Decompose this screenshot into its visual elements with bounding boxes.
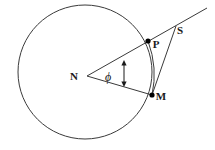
angle-phi-arrow xyxy=(121,60,126,87)
point-dot-m xyxy=(149,92,154,97)
geometry-diagram-root: ϕ N P M S xyxy=(0,0,215,150)
angle-phi-label: ϕ xyxy=(105,70,111,84)
main-circle xyxy=(18,5,152,139)
radius-n-to-m xyxy=(87,76,152,95)
point-dot-p xyxy=(145,38,150,43)
point-label-n: N xyxy=(70,70,78,82)
point-label-s: S xyxy=(177,24,183,36)
segment-m-to-s xyxy=(152,26,176,95)
point-label-m: M xyxy=(156,90,167,102)
point-label-p: P xyxy=(153,38,160,50)
geometry-canvas: ϕ N P M S xyxy=(0,0,215,150)
angle-arrow-head-up xyxy=(121,60,126,66)
